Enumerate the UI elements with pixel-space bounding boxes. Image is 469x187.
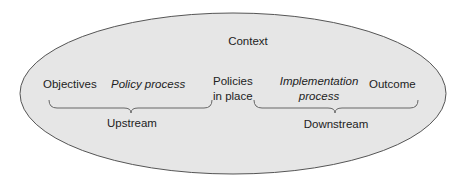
context-label: Context [218,34,278,48]
group-downstream-label: Downstream [296,117,376,131]
node-policies-line2: in place [213,89,253,104]
node-implementation-line1: Implementation [279,74,359,89]
node-policies-line1: Policies [213,74,253,89]
node-objectives: Objectives [43,77,97,91]
group-upstream-label: Upstream [96,116,168,130]
node-implementation-line2: process [279,89,359,104]
node-policy-process: Policy process [111,77,185,91]
node-outcome: Outcome [369,77,416,91]
node-implementation-process: Implementation process [279,74,359,104]
node-policies-in-place: Policies in place [213,74,253,104]
context-diagram: Context Objectives Policy process Polici… [0,0,469,187]
